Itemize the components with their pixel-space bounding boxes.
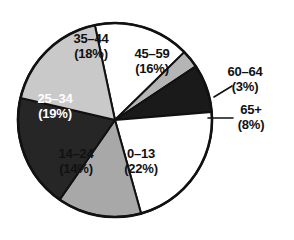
pie-slice-group <box>18 23 212 217</box>
leader-line-60-64 <box>214 86 232 97</box>
pie-chart: 45–59 (16%) 60–64 (3%) 65+ (8%) 0–13 (22… <box>0 0 294 240</box>
pie-chart-canvas <box>0 0 294 240</box>
